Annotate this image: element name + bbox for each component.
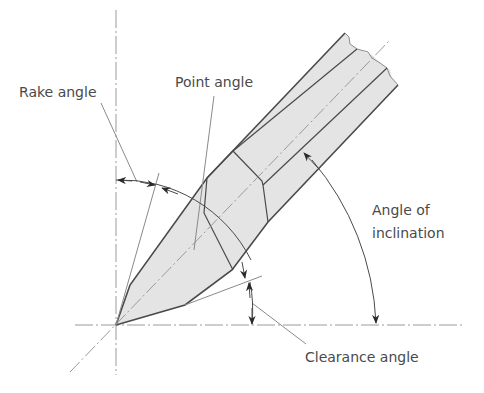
rake-angle-leader: [101, 103, 137, 182]
pencil-angles-diagram: Rake angle Point angle Angle of inclinat…: [0, 0, 484, 393]
pencil-body: [116, 33, 398, 325]
angle-of-inclination-label-line1: Angle of: [372, 202, 431, 218]
clearance-angle-label: Clearance angle: [305, 349, 419, 365]
point-angle-label: Point angle: [175, 74, 253, 90]
clearance-angle-leader: [252, 303, 306, 344]
angle-of-inclination-label-line2: inclination: [372, 225, 445, 241]
rake-angle-label: Rake angle: [19, 84, 97, 100]
